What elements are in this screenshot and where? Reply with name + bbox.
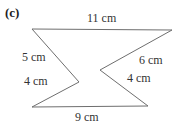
dimension-label-right-upper: 6 cm	[139, 54, 163, 67]
geometry-figure: (c) 11 cm 5 cm 4 cm 6 cm 4 cm 9 cm	[0, 0, 178, 134]
dimension-label-top: 11 cm	[87, 12, 116, 25]
dimension-label-left-lower: 4 cm	[24, 75, 48, 88]
dimension-label-bottom: 9 cm	[75, 111, 99, 124]
zigzag-hexagon-outline	[32, 29, 172, 107]
dimension-label-right-lower: 4 cm	[127, 72, 151, 85]
dimension-label-left-upper: 5 cm	[22, 51, 46, 64]
